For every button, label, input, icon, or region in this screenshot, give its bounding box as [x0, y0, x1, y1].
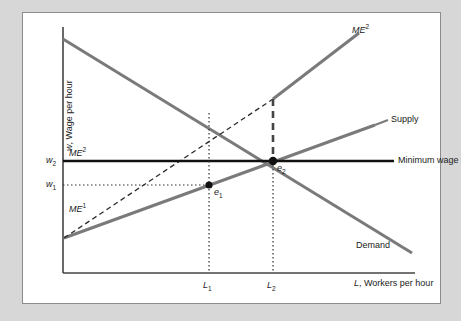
curve-label-me2-top-sup: 2	[366, 23, 370, 30]
point-e1	[205, 181, 212, 188]
me1-curve	[64, 99, 273, 238]
curve-label-me2-flat: ME2	[69, 147, 86, 158]
me2-curve	[273, 33, 359, 99]
x-tick-L2-sub: 2	[272, 285, 276, 292]
curve-label-me2-top: ME2	[352, 24, 369, 35]
supply-label-leader	[375, 120, 388, 125]
y-axis-label-wrap: w, Wage per hour	[53, 33, 67, 153]
x-tick-L1-sub: 1	[208, 285, 212, 292]
curve-label-minimum-wage: Minimum wage	[398, 156, 459, 165]
curve-label-me1-base: ME	[69, 204, 83, 214]
x-tick-L1: L1	[203, 281, 212, 292]
point-label-e1-sub: 1	[219, 192, 223, 199]
y-axis-label-text: , Wage per hour	[64, 80, 74, 144]
x-tick-L2: L2	[267, 281, 276, 292]
curve-label-me2-top-base: ME	[352, 25, 366, 35]
y-tick-w2: w2	[46, 156, 56, 167]
supply-curve	[64, 125, 375, 238]
curve-label-supply: Supply	[391, 115, 419, 124]
curve-label-me1-sup: 1	[83, 202, 87, 209]
point-e2	[269, 157, 277, 165]
x-axis-label-text: , Workers per hour	[359, 278, 433, 288]
y-tick-w1-sub: 1	[53, 184, 57, 191]
curve-label-me2-flat-base: ME	[69, 148, 83, 158]
y-tick-w1: w1	[46, 180, 56, 191]
curve-label-demand: Demand	[356, 241, 390, 250]
y-axis-label: w, Wage per hour	[64, 80, 74, 151]
point-label-e2-sub: 2	[282, 168, 286, 175]
economics-diagram	[23, 13, 442, 305]
point-label-e1: e1	[214, 188, 223, 199]
point-label-e2: e2	[277, 164, 286, 175]
y-tick-w2-sub: 2	[53, 160, 57, 167]
curve-label-me2-flat-sup: 2	[83, 146, 87, 153]
curve-label-me1: ME1	[69, 203, 86, 214]
x-axis-label: L, Workers per hour	[354, 279, 433, 288]
figure-frame: w, Wage per hour L, Workers per hour w2 …	[22, 12, 441, 304]
